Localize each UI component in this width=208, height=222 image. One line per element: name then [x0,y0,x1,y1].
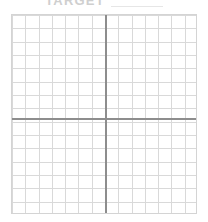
coordinate-grid[interactable] [11,14,197,214]
quadrant-iv[interactable] [105,118,196,213]
quadrant-iii[interactable] [12,118,105,213]
title-blank-line[interactable] [111,0,163,7]
page-title: TARGET [45,0,105,8]
quadrant-ii[interactable] [12,15,105,118]
worksheet-header: TARGET [0,0,208,9]
y-axis-line [105,15,107,213]
quadrant-i[interactable] [105,15,196,118]
x-axis-line [12,118,196,120]
worksheet-page: TARGET [0,0,208,222]
